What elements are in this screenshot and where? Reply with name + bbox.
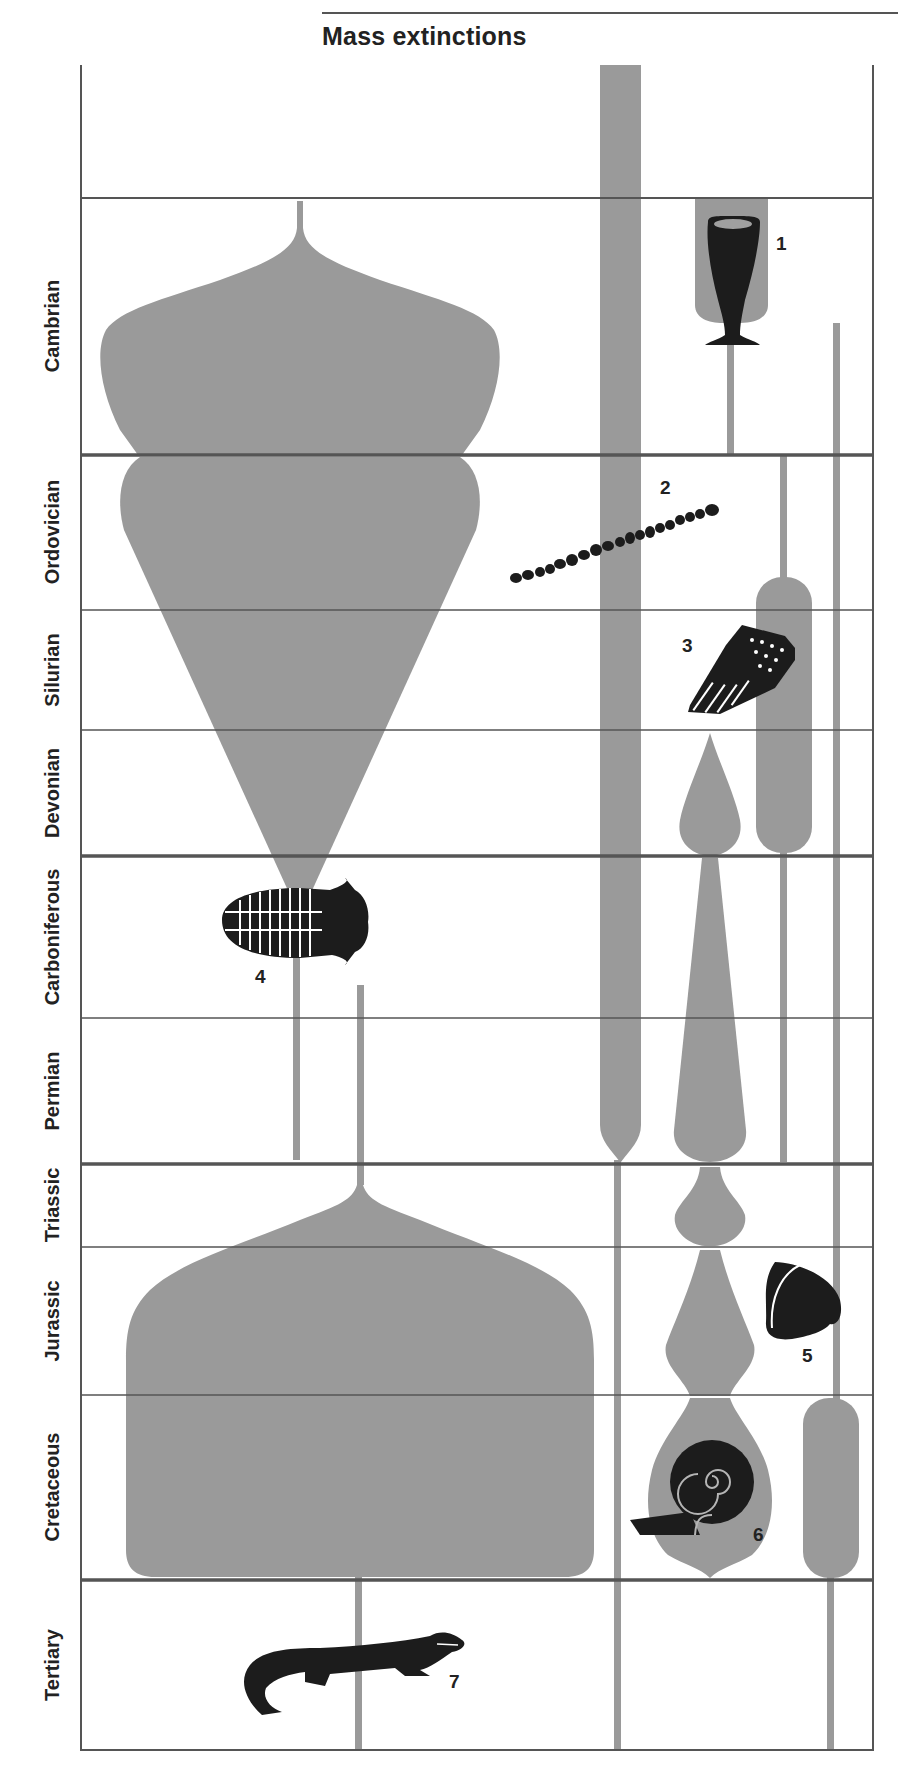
lineage-b-dome [126, 1185, 594, 1577]
lineage-g-thin-bar [833, 323, 840, 1403]
lineage-e-devonian-teardrop [679, 733, 740, 856]
fossil-number-7: 7 [449, 1671, 460, 1692]
bivalve-fossil-icon [766, 1262, 841, 1339]
lineage-c-thin-stem [614, 1160, 621, 1750]
lineage-a-cambrian-bulb [100, 201, 499, 455]
label-cambrian: Cambrian [41, 280, 63, 372]
lineage-f-capsule [756, 577, 812, 853]
lineage-d-stem [727, 330, 734, 455]
lineage-f-stem-top [780, 455, 787, 580]
label-cretaceous: Cretaceous [41, 1433, 63, 1542]
lineage-e-jurassic-diamond [666, 1250, 755, 1396]
lineage-a-cone [120, 457, 480, 895]
label-tertiary: Tertiary [41, 1628, 63, 1701]
lineage-g-tertiary-stem [827, 1577, 834, 1750]
label-permian: Permian [41, 1052, 63, 1131]
lineage-b-stem [357, 985, 364, 1185]
label-ordovician: Ordovician [41, 480, 63, 584]
label-jurassic: Jurassic [41, 1280, 63, 1361]
lineage-e-triassic-bulb [675, 1167, 746, 1246]
trilobite-fossil-icon [222, 878, 368, 965]
fossil-number-1: 1 [776, 233, 787, 254]
crocodile-fossil-icon [244, 1633, 464, 1715]
lineage-c-bar [600, 65, 641, 1162]
period-labels: Cambrian Ordovician Silurian Devonian Ca… [41, 280, 63, 1701]
fossil-number-4: 4 [255, 966, 266, 987]
label-carboniferous: Carboniferous [41, 869, 63, 1006]
label-triassic: Triassic [41, 1168, 63, 1243]
label-silurian: Silurian [41, 633, 63, 706]
extinction-diagram: Cambrian Ordovician Silurian Devonian Ca… [0, 0, 898, 1787]
fossil-number-3: 3 [682, 635, 693, 656]
lineage-f-stem-bottom [780, 850, 787, 1162]
lineage-e-spindle [674, 858, 746, 1162]
label-devonian: Devonian [41, 748, 63, 838]
lineage-g-capsule [803, 1398, 859, 1578]
fossil-number-2: 2 [660, 477, 671, 498]
fossil-number-5: 5 [802, 1345, 813, 1366]
fossil-number-6: 6 [753, 1524, 764, 1545]
